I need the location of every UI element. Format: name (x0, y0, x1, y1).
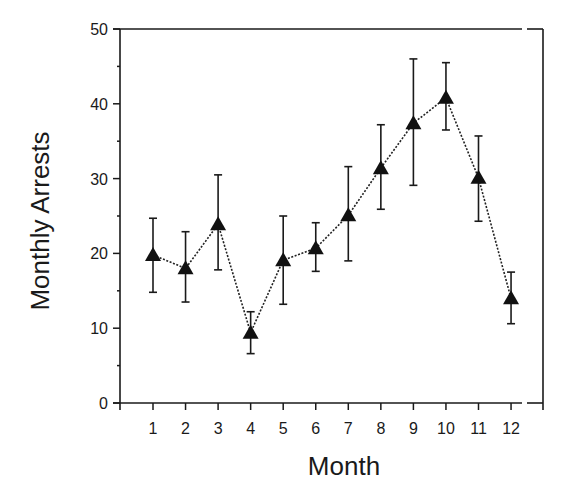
y-axis-ticks: 01020304050 (90, 21, 120, 412)
triangle-marker-icon (145, 247, 161, 261)
x-tick-label: 3 (214, 420, 223, 437)
triangle-marker-icon (438, 90, 454, 104)
x-tick-label: 1 (149, 420, 158, 437)
triangle-marker-icon (243, 325, 259, 339)
x-axis-ticks: 123456789101112 (149, 403, 521, 437)
triangle-marker-icon (373, 160, 389, 174)
x-axis-title: Month (308, 451, 380, 481)
y-tick-label: 30 (90, 171, 108, 188)
triangle-marker-icon (178, 260, 194, 274)
triangle-marker-icon (340, 207, 356, 221)
error-bars (149, 59, 515, 354)
x-tick-label: 11 (470, 420, 487, 437)
triangle-marker-icon (275, 252, 291, 266)
triangle-marker-icon (210, 216, 226, 230)
y-tick-label: 40 (90, 96, 108, 113)
x-tick-label: 8 (376, 420, 385, 437)
y-tick-label: 10 (90, 320, 108, 337)
line-chart-with-error-bars: 01020304050 123456789101112 Month Monthl… (0, 0, 572, 498)
y-axis-title: Monthly Arrests (25, 131, 55, 310)
y-tick-label: 20 (90, 245, 108, 262)
x-tick-label: 10 (437, 420, 455, 437)
y-tick-label: 50 (90, 21, 108, 38)
x-tick-label: 7 (344, 420, 353, 437)
dotted-line (153, 98, 511, 333)
x-tick-label: 12 (502, 420, 520, 437)
x-tick-label: 6 (311, 420, 320, 437)
y-tick-label: 0 (99, 395, 108, 412)
data-markers (145, 90, 519, 339)
triangle-marker-icon (503, 290, 519, 304)
triangle-marker-icon (405, 115, 421, 129)
x-tick-label: 5 (279, 420, 288, 437)
series-line (153, 98, 511, 333)
triangle-marker-icon (471, 170, 487, 184)
x-tick-label: 2 (181, 420, 190, 437)
x-tick-label: 4 (246, 420, 255, 437)
x-tick-label: 9 (409, 420, 418, 437)
chart: 01020304050 123456789101112 Month Monthl… (0, 0, 572, 498)
